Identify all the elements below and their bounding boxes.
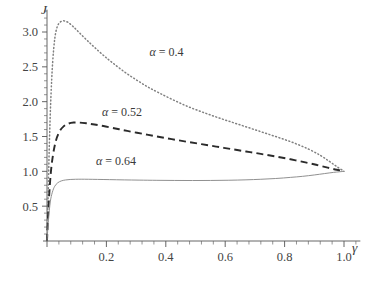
y-tick-label: 1.0 (22, 165, 38, 179)
x-tick-label: 0.2 (99, 250, 115, 264)
x-tick-label: 0.4 (158, 250, 174, 264)
y-tick-label: 1.5 (22, 130, 38, 144)
x-tick-label: 0.8 (277, 250, 293, 264)
y-tick-label: 2.5 (22, 60, 38, 74)
y-axis-title: J (41, 2, 48, 17)
chart-canvas: 0.51.01.52.02.53.0 0.20.40.60.81.0 α = 0… (0, 0, 371, 284)
y-tick-label: 3.0 (22, 25, 38, 39)
x-axis-title: γ (352, 240, 358, 255)
x-tick-label: 0.6 (217, 250, 233, 264)
x-tick-label: 1.0 (336, 250, 352, 264)
chart-figure: 0.51.01.52.02.53.0 0.20.40.60.81.0 α = 0… (0, 0, 371, 284)
curve-label-1: α = 0.52 (102, 105, 142, 119)
y-tick-label: 0.5 (22, 200, 38, 214)
y-tick-label: 2.0 (22, 95, 38, 109)
curve-label-0: α = 0.4 (149, 45, 183, 59)
curve-label-2: α = 0.64 (96, 154, 136, 168)
